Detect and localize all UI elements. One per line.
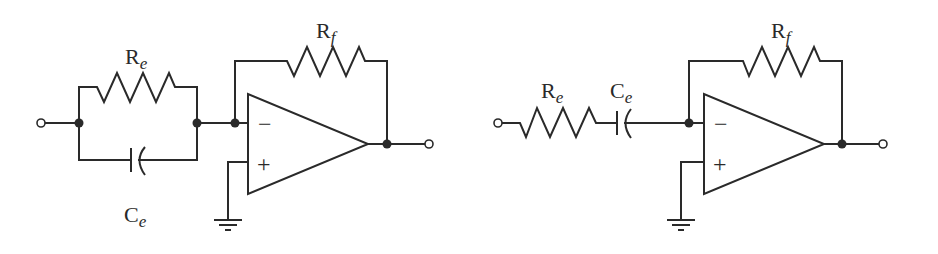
left-label-re: Re [125,44,148,73]
right-node-out [838,140,847,149]
left-ground-wire [228,162,248,220]
left-opamp [248,94,368,194]
right-ground-wire [681,162,704,220]
right-opamp-plus: + [713,151,727,177]
right-ground-icon [667,220,695,230]
circuit-figure: Re Ce Rf − + Re Ce [0,0,938,254]
left-label-rf: Rf [316,18,338,47]
left-cap-wire-a [79,123,131,160]
left-ground-icon [214,220,242,230]
left-node-out [383,140,392,149]
left-opamp-minus: − [258,111,272,137]
right-label-re: Re [541,78,564,107]
left-cap-wire-b [138,123,197,160]
right-resistor-re [502,108,617,137]
left-circuit: Re Ce Rf − + [37,18,433,231]
left-resistor-re [79,73,197,123]
right-output-terminal [879,140,887,148]
left-output-terminal [425,140,433,148]
right-opamp [704,94,824,194]
right-input-terminal [494,119,502,127]
right-label-rf: Rf [771,18,793,47]
right-resistor-rf [689,47,842,144]
right-circuit: Re Ce Rf − + [494,18,887,230]
right-label-ce: Ce [610,78,633,107]
left-label-ce: Ce [124,202,147,231]
left-input-terminal [37,119,45,127]
left-opamp-plus: + [257,151,271,177]
right-opamp-minus: − [714,111,728,137]
